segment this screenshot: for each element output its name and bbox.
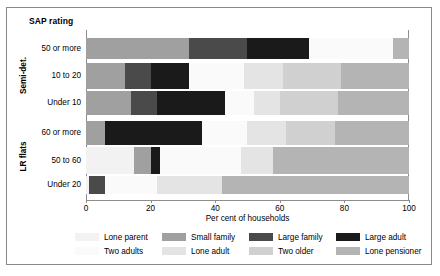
bar-segment — [157, 176, 222, 194]
page-title: SAP rating — [29, 16, 73, 26]
legend-label: Lone pensioner — [365, 247, 421, 256]
bar-segment — [273, 147, 409, 174]
bar-segment — [157, 91, 225, 115]
bar-segment — [244, 63, 283, 89]
bar-segment — [189, 63, 244, 89]
bar-row — [86, 63, 409, 89]
plot-area — [86, 30, 409, 200]
bar-segment — [86, 121, 105, 145]
x-tick-label: 40 — [211, 204, 220, 213]
chart-legend: Lone parentTwo adultsSmall familyLone ad… — [75, 230, 423, 258]
bar-row — [86, 91, 409, 115]
bar-segment — [393, 38, 409, 59]
legend-swatch-small-family — [162, 233, 186, 241]
category-label: Under 10 — [47, 98, 81, 107]
bar-segment — [222, 176, 409, 194]
bar-segment — [189, 38, 247, 59]
bar-segment — [151, 63, 190, 89]
category-label: 50 or more — [41, 44, 81, 53]
chart-figure: SAP rating 50 or more10 to 20Under 1060 … — [6, 7, 432, 265]
bar-segment — [247, 121, 286, 145]
bar-segment — [151, 147, 161, 174]
x-tick-label: 80 — [340, 204, 349, 213]
bar-segment — [225, 91, 254, 115]
bar-segment — [338, 91, 409, 115]
bar-segment — [286, 121, 334, 145]
bar-segment — [335, 121, 409, 145]
legend-swatch-two-adults — [75, 247, 99, 255]
bar-segment — [105, 121, 202, 145]
x-tick — [86, 200, 87, 203]
bar-segment — [86, 91, 131, 115]
bar-segment — [283, 63, 341, 89]
bar-segment — [86, 147, 134, 174]
legend-item: Lone pensioner — [336, 244, 423, 258]
bar-segment — [134, 147, 150, 174]
category-label: 60 or more — [41, 128, 81, 137]
legend-swatch-lone-adult — [162, 247, 186, 255]
x-tick-label: 20 — [146, 204, 155, 213]
bar-segment — [202, 121, 247, 145]
x-tick — [409, 200, 410, 203]
bar-row — [86, 38, 409, 59]
legend-swatch-lone-parent — [75, 233, 99, 241]
bar-segment — [280, 91, 338, 115]
bar-segment — [105, 176, 157, 194]
legend-swatch-large-adult — [336, 233, 360, 241]
bar-segment — [309, 38, 393, 59]
bar-segment — [241, 147, 273, 174]
bar-segment — [86, 63, 125, 89]
legend-item: Lone adult — [162, 244, 249, 258]
x-axis-title: Per cent of households — [86, 214, 409, 223]
group-label: Semi-det. — [19, 45, 28, 105]
legend-label: Lone adult — [191, 247, 229, 256]
legend-swatch-two-older — [249, 247, 273, 255]
legend-item: Small family — [162, 230, 249, 244]
bar-segment — [86, 38, 189, 59]
category-label: 10 to 20 — [51, 71, 81, 80]
legend-swatch-large-family — [249, 233, 273, 241]
legend-item: Two older — [249, 244, 336, 258]
legend-label: Large family — [278, 233, 323, 242]
bar-segment — [341, 63, 409, 89]
x-tick-label: 0 — [84, 204, 89, 213]
bar-segment — [89, 176, 105, 194]
x-tick — [151, 200, 152, 203]
legend-label: Large adult — [365, 233, 406, 242]
group-label: LR flats — [19, 126, 28, 186]
x-tick — [215, 200, 216, 203]
x-axis-line — [86, 200, 409, 201]
legend-label: Two adults — [104, 247, 143, 256]
legend-item: Large family — [249, 230, 336, 244]
category-label: Under 20 — [47, 180, 81, 189]
category-label: 50 to 60 — [51, 156, 81, 165]
x-tick-label: 100 — [402, 204, 416, 213]
x-tick — [344, 200, 345, 203]
legend-item: Large adult — [336, 230, 423, 244]
bar-row — [86, 176, 409, 194]
bar-segment — [125, 63, 151, 89]
legend-label: Small family — [191, 233, 235, 242]
bar-segment — [131, 91, 157, 115]
legend-label: Lone parent — [104, 233, 148, 242]
legend-item: Lone parent — [75, 230, 162, 244]
bar-row — [86, 121, 409, 145]
legend-swatch-lone-pensioner — [336, 247, 360, 255]
x-tick — [280, 200, 281, 203]
bar-segment — [254, 91, 280, 115]
bar-segment — [160, 147, 241, 174]
bar-segment — [247, 38, 308, 59]
bar-row — [86, 147, 409, 174]
legend-label: Two older — [278, 247, 314, 256]
x-tick-label: 60 — [275, 204, 284, 213]
legend-item: Two adults — [75, 244, 162, 258]
